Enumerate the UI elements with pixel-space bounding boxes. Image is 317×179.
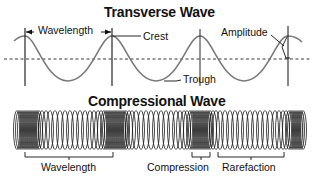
compressional-wave-title: Compressional Wave bbox=[88, 93, 225, 109]
trough-leader bbox=[164, 80, 181, 81]
rarefaction-bracket bbox=[218, 152, 284, 160]
wavelength-label-bottom: Wavelength bbox=[41, 161, 96, 173]
wave-diagram: Transverse Wave Wavelength Crest Trough … bbox=[0, 0, 317, 179]
rarefaction-label: Rarefaction bbox=[222, 161, 276, 173]
crest-label: Crest bbox=[143, 30, 168, 42]
wavelength-bracket bbox=[25, 152, 113, 160]
compression-shade-middle bbox=[106, 113, 128, 147]
trough-label: Trough bbox=[183, 73, 216, 85]
amplitude-label: Amplitude bbox=[221, 26, 268, 38]
arrow-right-icon bbox=[105, 30, 111, 35]
slinky-spring bbox=[14, 111, 307, 150]
compression-shade-right bbox=[193, 113, 213, 147]
transverse-wave-title: Transverse Wave bbox=[104, 4, 215, 20]
compression-shade-end bbox=[292, 113, 304, 147]
amplitude-bracket bbox=[282, 37, 287, 58]
wavelength-label-top: Wavelength bbox=[38, 24, 93, 36]
arrow-left-icon bbox=[26, 30, 32, 35]
transverse-wave-curve bbox=[14, 36, 302, 81]
compression-label: Compression bbox=[147, 161, 209, 173]
compression-shade-left bbox=[20, 113, 40, 147]
compression-bracket bbox=[192, 152, 210, 160]
